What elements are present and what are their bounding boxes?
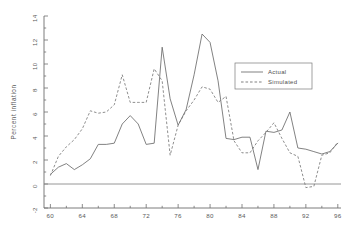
x-tick-label: 84 (238, 212, 246, 219)
chart-axes: -20246810121460646872768084889296 (31, 14, 342, 219)
x-tick-label: 96 (334, 212, 342, 219)
x-tick-label: 76 (174, 212, 182, 219)
x-tick-label: 60 (47, 212, 55, 219)
y-tick-label: 6 (31, 112, 38, 116)
y-axis-title: Percent inflation (10, 84, 17, 139)
x-tick-label: 68 (110, 212, 118, 219)
x-tick-label: 72 (142, 212, 150, 219)
y-tick-label: 10 (31, 62, 38, 70)
y-tick-label: 8 (31, 88, 38, 92)
inflation-chart: -20246810121460646872768084889296 Percen… (0, 0, 353, 238)
chart-series (50, 34, 337, 188)
x-tick-label: 80 (206, 212, 214, 219)
y-tick-label: 12 (31, 38, 38, 46)
x-tick-label: 88 (270, 212, 278, 219)
y-axis-title-text: Percent inflation (10, 84, 17, 139)
chart-legend: ActualSimulated (235, 63, 312, 89)
y-tick-label: 14 (31, 14, 38, 22)
axis-frame (44, 16, 341, 208)
chart-canvas: -20246810121460646872768084889296 Percen… (0, 0, 353, 238)
x-tick-label: 92 (302, 212, 310, 219)
y-tick-label: 0 (31, 184, 38, 188)
legend-label-simulated: Simulated (268, 79, 297, 85)
series-line-actual (50, 34, 337, 174)
y-tick-label: 4 (31, 136, 38, 140)
y-tick-label: 2 (31, 160, 38, 164)
y-tick-label: -2 (31, 207, 38, 213)
x-tick-label: 64 (79, 212, 87, 219)
legend-label-actual: Actual (268, 69, 286, 75)
